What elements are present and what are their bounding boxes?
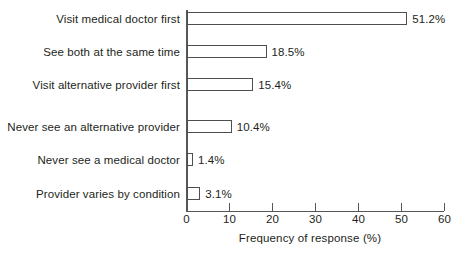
y-axis-line [186, 10, 188, 212]
x-axis-tick [315, 203, 316, 211]
x-axis-tick-label: 20 [266, 213, 279, 225]
category-label: Visit alternative provider first [33, 78, 180, 93]
bar-row: See both at the same time18.5% [0, 45, 462, 60]
bar-row: Visit medical doctor first51.2% [0, 12, 462, 27]
x-axis-tick-label: 40 [352, 213, 365, 225]
bar-row: Visit alternative provider first15.4% [0, 78, 462, 93]
x-axis-tick-label: 10 [223, 213, 236, 225]
x-axis-title: Frequency of response (%) [0, 232, 462, 244]
bar [187, 45, 267, 58]
bar-value-label: 10.4% [237, 120, 270, 135]
category-label: Never see an alternative provider [7, 120, 180, 135]
category-label: Provider varies by condition [36, 187, 180, 202]
x-axis-tick [186, 203, 187, 211]
x-axis-tick [229, 203, 230, 211]
x-axis-tick-label: 60 [438, 213, 451, 225]
x-axis-tick-label: 50 [395, 213, 408, 225]
x-axis-tick [358, 203, 359, 211]
x-axis-tick-label: 0 [183, 213, 190, 225]
x-axis-tick [444, 203, 445, 211]
bar-row: Never see a medical doctor1.4% [0, 153, 462, 168]
bar-value-label: 51.2% [412, 12, 445, 27]
bar-row: Provider varies by condition3.1% [0, 187, 462, 202]
bar [187, 12, 407, 25]
bar [187, 78, 253, 91]
x-axis-tick-label: 30 [309, 213, 322, 225]
category-label: Never see a medical doctor [37, 153, 180, 168]
plot-area: 0102030405060 Visit medical doctor first… [0, 0, 462, 261]
bar-chart-figure: 0102030405060 Visit medical doctor first… [0, 0, 462, 261]
bar-value-label: 3.1% [205, 187, 232, 202]
bar-value-label: 1.4% [198, 153, 225, 168]
bar-value-label: 18.5% [272, 45, 305, 60]
x-axis-tick [401, 203, 402, 211]
bar-row: Never see an alternative provider10.4% [0, 120, 462, 135]
bar [187, 153, 193, 166]
category-label: Visit medical doctor first [56, 12, 180, 27]
bar [187, 120, 232, 133]
category-label: See both at the same time [43, 45, 180, 60]
x-axis-title-text: Frequency of response (%) [239, 232, 381, 244]
x-axis-tick [272, 203, 273, 211]
bar [187, 187, 200, 200]
bar-value-label: 15.4% [258, 78, 291, 93]
